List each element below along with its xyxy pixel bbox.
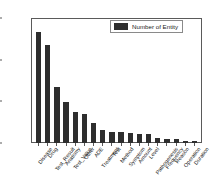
bar [109, 132, 114, 143]
bar [128, 133, 133, 143]
x-axis-label-slot: Operation [181, 146, 190, 189]
x-axis-label-slot: Pathogenesis [153, 146, 162, 189]
bar-slot [34, 18, 43, 143]
x-axis-label-slot: Amount [135, 146, 144, 189]
x-axis-label-slot: ADE [89, 146, 98, 189]
bar-slot [98, 18, 107, 143]
bar-slot [43, 18, 52, 143]
x-axis-label-slot: Test_Value [71, 146, 80, 189]
bar-slot [162, 18, 171, 143]
y-axis-tick-mark [0, 101, 2, 102]
y-axis: 0100002000030000 [0, 0, 31, 189]
x-axis-label-slot: Test_Result [52, 146, 61, 189]
bar [63, 102, 68, 143]
bar-slot [190, 18, 199, 143]
bar-slot [52, 18, 61, 143]
bar-slot [181, 18, 190, 143]
chart-legend: Number of Entity [110, 20, 183, 33]
bar-series-container [31, 18, 202, 143]
x-axis-label-slot: Reason [172, 146, 181, 189]
x-axis-label-slot: Frequency [162, 146, 171, 189]
bar [91, 123, 96, 143]
x-axis-label-slot: Symptom [126, 146, 135, 189]
bar [137, 134, 142, 143]
bar-slot [153, 18, 162, 143]
x-axis-label-slot: Treatment [98, 146, 107, 189]
legend-swatch-number-of-entity [114, 23, 128, 30]
bar [36, 32, 41, 143]
x-axis-label-slot: Test [107, 146, 116, 189]
bar-slot [80, 18, 89, 143]
y-axis-tick-mark [0, 18, 2, 19]
bar [118, 132, 123, 143]
legend-label-number-of-entity: Number of Entity [132, 23, 178, 30]
x-axis-label-slot: Level [144, 146, 153, 189]
x-axis-label-slot: Other [80, 146, 89, 189]
y-axis-tick-mark [0, 59, 2, 60]
bar-slot [126, 18, 135, 143]
x-axis-label-slot: Duration [190, 146, 199, 189]
bar-slot [107, 18, 116, 143]
x-axis-labels: DiseaseDrugTest_ResultAnatomyTest_ValueO… [31, 146, 202, 189]
bar [54, 87, 59, 143]
y-axis-tick-mark [0, 143, 2, 144]
x-axis-label-slot: Anatomy [62, 146, 71, 189]
bar-slot [135, 18, 144, 143]
bar-slot [117, 18, 126, 143]
bar [73, 112, 78, 143]
bar-slot [144, 18, 153, 143]
bar [146, 134, 151, 143]
bar-slot [172, 18, 181, 143]
bar-slot [71, 18, 80, 143]
bar [100, 130, 105, 143]
x-axis-label-slot: Disease [34, 146, 43, 189]
x-axis-label-slot: Method [117, 146, 126, 189]
bar-chart-figure: 0100002000030000 DiseaseDrugTest_ResultA… [0, 0, 213, 189]
x-axis-label-slot: Drug [43, 146, 52, 189]
bar [82, 114, 87, 143]
bar-slot [62, 18, 71, 143]
bar-slot [89, 18, 98, 143]
bar [45, 45, 50, 143]
